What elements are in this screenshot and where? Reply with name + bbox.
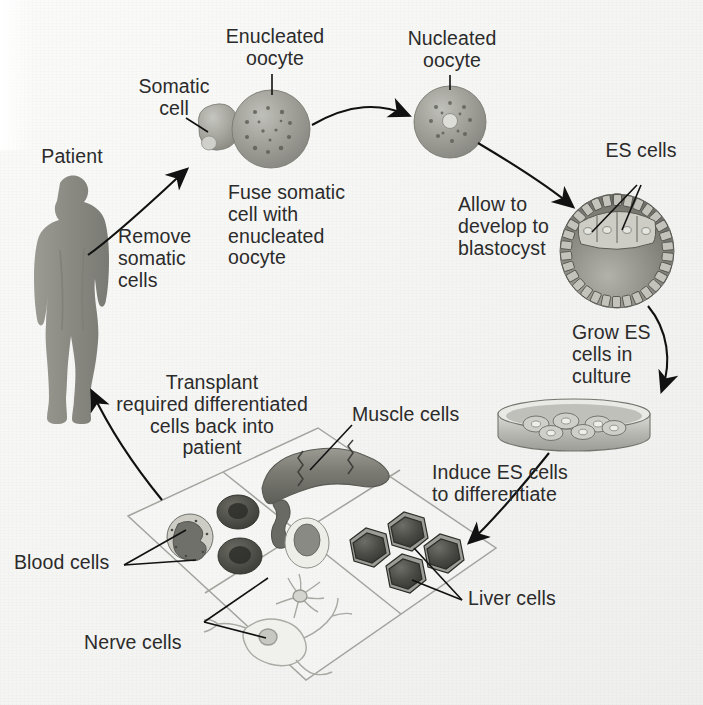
label-patient: Patient <box>24 146 120 168</box>
step-grow-es-cells: Grow ES cells in culture <box>572 322 676 387</box>
label-enucleated-oocyte: Enucleated oocyte <box>214 26 336 70</box>
figure-canvas: Patient Somatic cell Enucleated oocyte N… <box>0 0 703 705</box>
label-nerve-cells: Nerve cells <box>84 632 208 654</box>
label-blood-cells: Blood cells <box>14 552 132 574</box>
step-develop-blastocyst: Allow to develop to blastocyst <box>458 194 578 259</box>
label-muscle-cells: Muscle cells <box>352 404 502 426</box>
step-induce-differentiate: Induce ES cells to differentiate <box>432 462 622 506</box>
arrow-fuse <box>312 107 408 125</box>
leader-es-cells <box>592 185 641 232</box>
label-es-cells: ES cells <box>592 140 690 162</box>
step-fuse: Fuse somatic cell with enucleated oocyte <box>228 182 364 269</box>
label-somatic-cell: Somatic cell <box>128 76 220 120</box>
leader-blood-cells <box>124 530 196 565</box>
leader-somatic-cell <box>186 118 208 132</box>
label-liver-cells: Liver cells <box>468 588 586 610</box>
leader-liver-cells <box>412 548 462 600</box>
step-transplant: Transplant required differentiated cells… <box>96 372 328 459</box>
leader-nerve-cells <box>204 578 268 638</box>
label-nucleated-oocyte: Nucleated oocyte <box>396 28 508 72</box>
step-remove-somatic-cells: Remove somatic cells <box>118 226 238 291</box>
